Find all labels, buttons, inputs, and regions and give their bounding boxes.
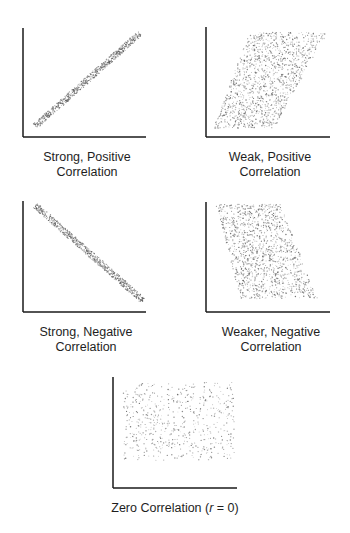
data-points [123,382,235,461]
caption-text: Zero Correlation ( [111,501,209,515]
plot-area [0,0,350,533]
chart-zero-correlation [0,0,350,533]
caption-text: = 0) [213,501,238,515]
caption-zero-correlation: Zero Correlation (r = 0) [111,501,239,516]
